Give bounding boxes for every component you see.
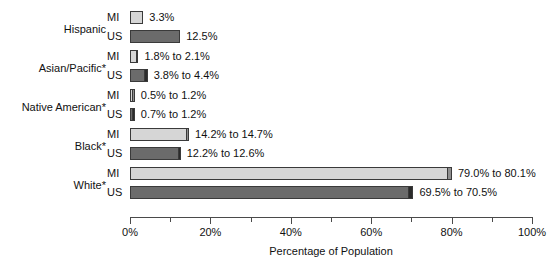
bar-value-label: 0.7% to 1.2% [141, 107, 206, 121]
bar-range-cap [186, 128, 189, 141]
bar-range-cap [132, 89, 135, 102]
bar-range [130, 108, 135, 121]
series-label: US [107, 30, 128, 43]
series-label: US [107, 186, 128, 199]
bar-value-label: 0.5% to 1.2% [141, 88, 206, 102]
bar-value-label: 14.2% to 14.7% [195, 127, 273, 141]
bar-range [130, 89, 135, 102]
chart-group: HispanicMI3.3%US12.5% [0, 10, 559, 48]
series-label: MI [107, 167, 128, 180]
population-percentage-bar-chart: HispanicMI3.3%US12.5%Asian/Pacific*MI1.8… [0, 0, 559, 268]
x-tick-label: 40% [266, 226, 316, 238]
bar-range [130, 11, 143, 24]
series-label: MI [107, 11, 128, 24]
bar-range-cap [136, 50, 138, 63]
bar-range-cap [447, 167, 452, 180]
x-tick-minor [331, 217, 332, 222]
bar-body [130, 11, 143, 24]
series-label: US [107, 147, 128, 160]
bar-range-cap [132, 108, 135, 121]
x-tick-minor [170, 217, 171, 222]
bar-row: US69.5% to 70.5% [0, 185, 559, 201]
bar-value-label: 69.5% to 70.5% [419, 185, 497, 199]
chart-group: Native American*MI0.5% to 1.2%US0.7% to … [0, 88, 559, 126]
x-tick-label: 60% [346, 226, 396, 238]
x-tick-label: 20% [185, 226, 235, 238]
bar-value-label: 1.8% to 2.1% [144, 49, 209, 63]
x-tick-minor [411, 217, 412, 222]
bar-range [130, 50, 138, 63]
x-tick-major [291, 217, 292, 224]
x-tick-major [371, 217, 372, 224]
x-tick-major [130, 217, 131, 224]
bar-row: MI3.3% [0, 10, 559, 26]
bar-value-label: 12.5% [186, 29, 217, 43]
chart-group: White*MI79.0% to 80.1%US69.5% to 70.5% [0, 166, 559, 204]
chart-group: Black*MI14.2% to 14.7%US12.2% to 12.6% [0, 127, 559, 165]
x-tick-label: 80% [427, 226, 477, 238]
chart-group: Asian/Pacific*MI1.8% to 2.1%US3.8% to 4.… [0, 49, 559, 87]
x-axis-title: Percentage of Population [130, 245, 532, 257]
series-label: MI [107, 89, 128, 102]
bar-body [130, 147, 179, 160]
bar-row: US12.2% to 12.6% [0, 146, 559, 162]
x-tick-major [210, 217, 211, 224]
series-label: US [107, 108, 128, 121]
bar-range [130, 147, 181, 160]
bar-row: US3.8% to 4.4% [0, 68, 559, 84]
bar-body [130, 186, 409, 199]
bar-row: MI0.5% to 1.2% [0, 88, 559, 104]
bar-range [130, 128, 189, 141]
bar-value-label: 3.8% to 4.4% [154, 68, 219, 82]
bar-range-cap [408, 186, 413, 199]
bar-range-cap [144, 69, 147, 82]
series-label: MI [107, 50, 128, 63]
series-label: US [107, 69, 128, 82]
bar-body [130, 167, 448, 180]
bar-row: MI14.2% to 14.7% [0, 127, 559, 143]
bar-row: US12.5% [0, 29, 559, 45]
bar-range [130, 186, 413, 199]
bar-row: MI1.8% to 2.1% [0, 49, 559, 65]
bar-value-label: 79.0% to 80.1% [458, 166, 536, 180]
x-tick-major [532, 217, 533, 224]
x-tick-major [452, 217, 453, 224]
bar-range [130, 30, 180, 43]
series-label: MI [107, 128, 128, 141]
x-tick-label: 100% [507, 226, 557, 238]
x-tick-minor [492, 217, 493, 222]
bar-body [130, 30, 180, 43]
bar-row: US0.7% to 1.2% [0, 107, 559, 123]
bar-range-cap [178, 147, 181, 160]
bar-body [130, 69, 145, 82]
bar-range [130, 69, 148, 82]
x-tick-label: 0% [105, 226, 155, 238]
x-tick-minor [251, 217, 252, 222]
bar-value-label: 3.3% [149, 10, 174, 24]
bar-row: MI79.0% to 80.1% [0, 166, 559, 182]
bar-body [130, 128, 187, 141]
bar-value-label: 12.2% to 12.6% [187, 146, 265, 160]
bar-range [130, 167, 452, 180]
